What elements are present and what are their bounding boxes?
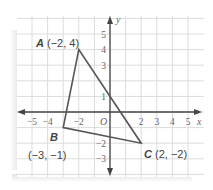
y-axis-label: y [115,14,121,25]
y-tick-label: 4 [101,45,106,55]
y-tick-label: 1 [101,92,106,102]
origin-label: O [100,116,107,127]
y-tick-label: −2 [96,139,106,149]
x-tick-label: −2 [74,117,84,127]
point-c-coords: (2, −2) [155,148,187,160]
point-b-name: B [50,131,58,143]
x-tick-label: 4 [170,117,175,127]
point-c-name: C [144,148,153,160]
x-axis-label: x [196,116,202,127]
x-tick-label: −5 [27,117,37,127]
point-a-name: A [35,37,44,49]
y-tick-label: 5 [101,30,106,40]
x-tick-label: 5 [186,117,191,127]
y-tick-label: 3 [101,61,106,71]
coordinate-plane: −5−4−22345 5431−2−3 y x O A (−2, 4) B (−… [0,0,213,190]
x-tick-label: 2 [139,117,144,127]
point-a-coords: (−2, 4) [47,37,79,49]
y-tick-label: −3 [96,154,106,164]
x-tick-label: 3 [154,117,159,127]
x-tick-label: −4 [43,117,53,127]
point-b-coords: (−3, −1) [28,149,67,161]
